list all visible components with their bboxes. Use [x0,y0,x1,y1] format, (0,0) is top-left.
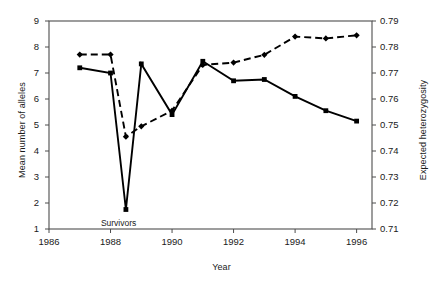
data-point-marker [323,35,329,41]
data-point-marker [123,134,129,140]
plot-canvas [0,0,443,282]
data-point-marker [124,207,129,212]
series-line-1 [80,35,357,136]
data-point-marker [108,71,113,76]
data-point-marker [230,60,236,66]
plot-frame [49,21,372,229]
data-point-marker [262,77,267,82]
data-point-marker [354,32,360,38]
data-point-marker [354,119,359,124]
data-point-marker [77,51,83,57]
data-point-marker [77,65,82,70]
axis-ticks [45,21,376,233]
data-point-marker [107,51,113,57]
series-line-0 [80,61,357,209]
data-point-marker [231,78,236,83]
plot-border [49,21,372,229]
data-point-marker [292,34,298,40]
data-point-marker [139,62,144,67]
data-series-layer [77,32,360,212]
data-point-marker [138,123,144,129]
data-point-marker [323,108,328,113]
chart-figure: Mean number of alleles Expected heterozy… [0,0,443,282]
data-point-marker [293,94,298,99]
